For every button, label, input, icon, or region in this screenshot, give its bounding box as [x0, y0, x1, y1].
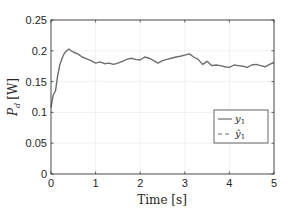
grid-lines — [51, 20, 274, 174]
x-tick-label: 3 — [182, 177, 188, 189]
plot-area-frame — [51, 20, 274, 174]
x-tick-label: 5 — [271, 177, 277, 189]
y-tick-label: 0.15 — [26, 76, 47, 88]
svg-text:Pd[W]: Pd[W] — [6, 78, 22, 117]
y-axis-ticks: 00.050.10.150.20.25 — [26, 14, 274, 180]
x-axis-label: Time [s] — [137, 193, 187, 207]
y-tick-label: 0.1 — [32, 106, 47, 118]
y-tick-label: 0.05 — [26, 137, 47, 149]
x-tick-label: 0 — [48, 177, 54, 189]
y-axis-label-unit: [W] — [6, 78, 20, 100]
x-tick-label: 4 — [226, 177, 232, 189]
y-axis-label-sub: d — [13, 103, 22, 108]
line-chart: 012345 00.050.10.150.20.25 Time [s] Pd[W… — [0, 0, 288, 213]
x-tick-label: 1 — [93, 177, 99, 189]
x-axis-ticks: 012345 — [48, 20, 277, 189]
series-line-y1 — [51, 49, 274, 108]
y-tick-label: 0.2 — [32, 45, 47, 57]
y-tick-label: 0.25 — [26, 14, 47, 26]
x-tick-label: 2 — [137, 177, 143, 189]
plot-series — [51, 49, 274, 108]
legend: y1 ŷ1 — [214, 110, 268, 143]
y-tick-label: 0 — [41, 168, 47, 180]
y-axis-label: Pd[W] — [6, 78, 22, 117]
